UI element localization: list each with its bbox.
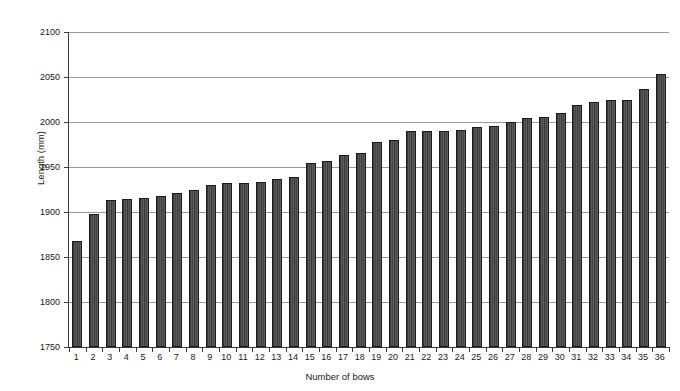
bar — [272, 179, 282, 347]
x-axis-tick — [369, 347, 370, 352]
x-axis-tick — [619, 347, 620, 352]
x-axis-tick — [336, 347, 337, 352]
x-axis-tick — [569, 347, 570, 352]
bar — [89, 214, 99, 347]
bar — [189, 190, 199, 347]
bar — [322, 161, 332, 347]
x-axis-tick — [536, 347, 537, 352]
x-axis-tick — [386, 347, 387, 352]
bar — [539, 117, 549, 347]
bar — [556, 113, 566, 347]
x-axis-tick — [252, 347, 253, 352]
bar — [239, 183, 249, 347]
bar — [389, 140, 399, 347]
x-axis-tick — [636, 347, 637, 352]
bar — [72, 241, 82, 347]
y-axis-label: 1950 — [2, 163, 60, 172]
bar — [206, 185, 216, 347]
bar — [172, 193, 182, 347]
bar — [572, 105, 582, 347]
x-axis-tick — [402, 347, 403, 352]
bar — [372, 142, 382, 347]
x-axis-tick — [419, 347, 420, 352]
y-axis-label: 1750 — [2, 343, 60, 352]
bar — [522, 118, 532, 347]
bar — [122, 199, 132, 348]
x-axis-tick — [319, 347, 320, 352]
x-axis-tick — [102, 347, 103, 352]
bar — [422, 131, 432, 347]
x-axis-tick — [302, 347, 303, 352]
bar-chart: Length (mm) 2100205020001950190018501800… — [0, 0, 680, 391]
y-axis-title: Length (mm) — [36, 131, 46, 185]
x-axis-tick — [119, 347, 120, 352]
x-axis-tick — [469, 347, 470, 352]
x-axis-tick — [586, 347, 587, 352]
y-axis-label: 2100 — [2, 28, 60, 37]
bar — [256, 182, 266, 347]
bar — [339, 155, 349, 347]
x-axis-tick — [186, 347, 187, 352]
x-axis-label: 36 — [650, 353, 670, 362]
x-axis-tick — [169, 347, 170, 352]
bar — [106, 200, 116, 347]
bar — [606, 100, 616, 347]
x-axis-tick — [669, 347, 670, 352]
x-axis-tick — [286, 347, 287, 352]
bar — [656, 74, 666, 347]
y-axis-label: 1800 — [2, 298, 60, 307]
bars-group — [69, 32, 669, 347]
x-axis-tick — [486, 347, 487, 352]
bar — [489, 126, 499, 347]
bar — [506, 122, 516, 347]
y-axis-label: 2050 — [2, 73, 60, 82]
x-axis-tick — [652, 347, 653, 352]
x-axis-title: Number of bows — [0, 372, 680, 382]
y-axis-label: 1900 — [2, 208, 60, 217]
x-axis-tick — [202, 347, 203, 352]
x-axis-tick — [236, 347, 237, 352]
x-axis-tick — [352, 347, 353, 352]
bar — [306, 163, 316, 348]
bar — [156, 196, 166, 347]
bar — [472, 127, 482, 347]
x-axis-tick — [436, 347, 437, 352]
x-axis-tick — [552, 347, 553, 352]
x-axis-tick — [502, 347, 503, 352]
plot-area — [68, 32, 669, 348]
bar — [439, 131, 449, 347]
x-axis-tick — [219, 347, 220, 352]
x-axis-tick — [136, 347, 137, 352]
x-axis-tick — [86, 347, 87, 352]
bar — [622, 100, 632, 347]
y-axis-label: 2000 — [2, 118, 60, 127]
x-axis-tick — [519, 347, 520, 352]
bar — [406, 131, 416, 347]
bar — [139, 198, 149, 347]
bar — [639, 89, 649, 347]
bar — [356, 153, 366, 347]
bar — [222, 183, 232, 347]
x-axis-tick — [452, 347, 453, 352]
x-axis-tick — [269, 347, 270, 352]
bar — [289, 177, 299, 347]
y-axis-label: 1850 — [2, 253, 60, 262]
bar — [589, 102, 599, 347]
x-axis-tick — [602, 347, 603, 352]
x-axis-tick — [69, 347, 70, 352]
bar — [456, 130, 466, 347]
x-axis-tick — [152, 347, 153, 352]
